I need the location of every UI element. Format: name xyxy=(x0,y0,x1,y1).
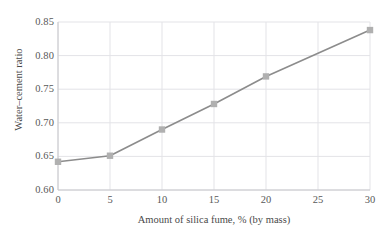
y-axis-tick-label: 0.80 xyxy=(35,50,54,61)
data-point-marker xyxy=(55,159,61,165)
x-axis-tick-label: 0 xyxy=(55,195,60,206)
x-axis-tick-labels: 051015202530 xyxy=(58,195,370,209)
data-series-line xyxy=(58,22,370,190)
y-axis-tick-label: 0.60 xyxy=(35,185,54,196)
x-axis-tick-label: 25 xyxy=(313,195,324,206)
x-axis-tick-label: 15 xyxy=(209,195,220,206)
chart-figure: 0.600.650.700.750.800.85 051015202530 Am… xyxy=(0,0,391,243)
y-axis-title: Water–cement ratio xyxy=(13,6,24,174)
x-axis-title: Amount of silica fume, % (by mass) xyxy=(58,214,370,225)
x-axis-tick-label: 20 xyxy=(261,195,272,206)
y-axis-tick-label: 0.70 xyxy=(35,118,54,129)
data-point-marker xyxy=(367,27,373,33)
data-point-marker xyxy=(211,101,217,107)
data-point-marker xyxy=(107,153,113,159)
y-axis-tick-label: 0.85 xyxy=(35,17,54,28)
data-point-marker xyxy=(159,126,165,132)
series-polyline xyxy=(58,30,370,162)
y-axis-tick-label: 0.65 xyxy=(35,151,54,162)
data-point-marker xyxy=(263,73,269,79)
x-axis-tick-label: 30 xyxy=(365,195,376,206)
x-axis-tick-label: 10 xyxy=(157,195,168,206)
x-axis-tick-label: 5 xyxy=(107,195,112,206)
y-axis-tick-label: 0.75 xyxy=(35,84,54,95)
plot-area xyxy=(58,22,370,190)
